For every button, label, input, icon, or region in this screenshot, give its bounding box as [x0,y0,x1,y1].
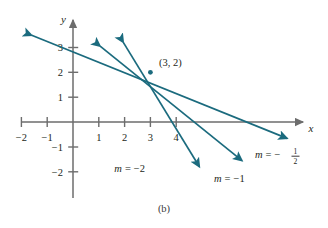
point-label-3-2: (3, 2) [159,57,182,69]
y-axis-label: y [60,13,66,25]
slope-label-mhalf-equals: = [266,149,272,160]
slope-annotation-m-equals-negative-2: m=−2 [114,163,145,174]
y-tick-label-2: 2 [58,67,63,78]
y-tick-label-1: 1 [58,92,63,103]
x-tick-label-1: 1 [96,132,101,143]
slope-annotation-m-equals-negative-1: m=−1 [214,173,245,184]
slope-label-mhalf-minus: − [275,149,281,160]
x-tick-label-2: 2 [122,132,127,143]
y-tick-label--2: −2 [52,167,63,178]
y-tick-label--1: −1 [52,142,63,153]
slope-label-m2-text: m=−2 [114,163,145,174]
slope-label-m2-variable: m [114,163,122,174]
x-tick-label-3: 3 [148,132,153,143]
x-tick-label--2: −2 [16,132,27,143]
figure-caption: (b) [158,203,171,215]
x-axis-label: x [308,122,314,134]
slope-label-m1-value: −1 [234,173,245,184]
slope-label-mhalf-variable: m [255,149,263,160]
coordinate-plane-svg: −2 −1 1 2 3 4 3 2 1 −1 −2 y x [0,0,328,228]
intersection-point-dot [148,70,153,75]
slope-label-m1-text: m=−1 [214,173,245,184]
slope-label-mhalf-numerator: 1 [294,147,298,156]
figure-container: −2 −1 1 2 3 4 3 2 1 −1 −2 y x [0,0,328,228]
slope-label-m2-value: −2 [134,163,145,174]
slope-label-m1-variable: m [214,173,222,184]
figure-background [0,0,328,228]
slope-label-mhalf-text: m=− [255,149,281,160]
slope-label-m2-equals: = [125,163,131,174]
slope-label-mhalf-denominator: 2 [294,157,298,166]
slope-label-m1-equals: = [225,173,231,184]
